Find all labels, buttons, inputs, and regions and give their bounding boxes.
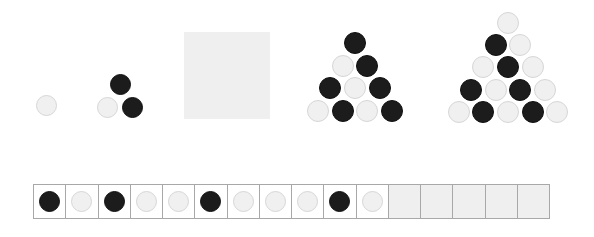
black-counter xyxy=(319,77,341,99)
strip-cell xyxy=(66,185,98,218)
light-counter xyxy=(233,191,254,212)
black-counter xyxy=(460,79,482,101)
strip-cell-empty xyxy=(421,185,453,218)
light-counter xyxy=(534,79,556,101)
strip-cell xyxy=(260,185,292,218)
black-counter xyxy=(485,34,507,56)
black-counter xyxy=(472,101,494,123)
black-counter xyxy=(497,56,519,78)
light-counter xyxy=(362,191,383,212)
light-counter xyxy=(522,56,544,78)
black-counter xyxy=(39,191,60,212)
black-counter xyxy=(356,55,378,77)
black-counter xyxy=(122,97,143,118)
light-counter xyxy=(332,55,354,77)
strip-cell xyxy=(163,185,195,218)
strip-cell xyxy=(357,185,389,218)
black-counter xyxy=(344,32,366,54)
black-counter xyxy=(329,191,350,212)
light-counter xyxy=(136,191,157,212)
black-counter xyxy=(104,191,125,212)
light-counter xyxy=(97,97,118,118)
black-counter xyxy=(200,191,221,212)
light-counter xyxy=(448,101,470,123)
light-counter xyxy=(307,100,329,122)
black-counter xyxy=(110,74,131,95)
light-counter xyxy=(71,191,92,212)
strip-cell xyxy=(195,185,227,218)
strip-cell xyxy=(34,185,66,218)
light-counter xyxy=(356,100,378,122)
light-counter xyxy=(344,77,366,99)
strip-cell-empty xyxy=(518,185,550,218)
light-counter xyxy=(546,101,568,123)
strip-cell-empty xyxy=(389,185,421,218)
black-counter xyxy=(522,101,544,123)
strip-cell xyxy=(99,185,131,218)
light-counter xyxy=(472,56,494,78)
light-counter xyxy=(168,191,189,212)
strip-cell-empty xyxy=(486,185,518,218)
strip-cell xyxy=(228,185,260,218)
light-counter xyxy=(485,79,507,101)
light-counter xyxy=(36,95,57,116)
counting-strip xyxy=(33,184,550,219)
light-counter xyxy=(497,101,519,123)
light-counter xyxy=(297,191,318,212)
strip-cell xyxy=(131,185,163,218)
strip-cell-empty xyxy=(453,185,485,218)
pattern-diagram xyxy=(0,0,594,237)
black-counter xyxy=(381,100,403,122)
missing-figure-placeholder xyxy=(184,32,270,119)
light-counter xyxy=(497,12,519,34)
black-counter xyxy=(369,77,391,99)
strip-cell xyxy=(292,185,324,218)
black-counter xyxy=(332,100,354,122)
light-counter xyxy=(265,191,286,212)
light-counter xyxy=(509,34,531,56)
black-counter xyxy=(509,79,531,101)
strip-cell xyxy=(324,185,356,218)
